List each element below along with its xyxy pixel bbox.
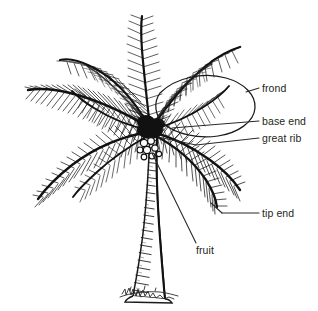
label-tip-end: tip end: [262, 208, 294, 219]
label-great-rib: great rib: [262, 133, 301, 144]
label-frond: frond: [262, 83, 286, 94]
label-base-end: base end: [262, 116, 306, 127]
label-fruit: fruit: [196, 245, 214, 256]
palm-tree-diagram: [0, 0, 318, 311]
